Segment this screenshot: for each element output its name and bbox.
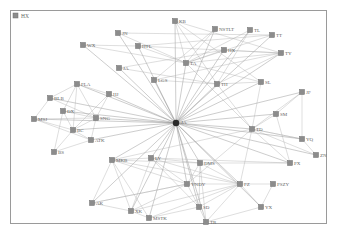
node-bc[interactable]: BC (71, 128, 85, 133)
hub-node-label: JA (181, 120, 187, 125)
edge-JA2-TH (119, 68, 217, 84)
node-jn[interactable]: JN (116, 31, 128, 36)
edge-TH-TD (217, 84, 252, 129)
edge-MSTK-FZ (149, 184, 240, 218)
node-htl[interactable]: HTL (136, 44, 152, 49)
node-yndy[interactable]: YNDY (185, 182, 206, 187)
node-label: SM (280, 112, 288, 117)
node-square-icon (110, 158, 115, 163)
node-square-icon (71, 128, 76, 133)
node-yx[interactable]: YX (259, 205, 273, 210)
node-blb[interactable]: BLB (48, 96, 65, 101)
node-square-icon (32, 117, 37, 122)
node-square-icon (314, 153, 319, 158)
node-square-icon (250, 127, 255, 132)
edge-hub-PX (176, 123, 290, 163)
node-ty[interactable]: TY (279, 51, 293, 56)
node-atk[interactable]: ATK (89, 138, 106, 143)
edge-hub-WX (83, 45, 176, 123)
edge-TD-PX (252, 129, 290, 163)
node-square-icon (173, 19, 178, 24)
node-label: HX (228, 48, 236, 53)
node-fla[interactable]: FLA (75, 82, 91, 87)
edge-HJ-SNG (96, 94, 109, 118)
node-lgs[interactable]: LGS (152, 78, 168, 83)
node-hj[interactable]: HJ (107, 92, 119, 97)
node-pszy[interactable]: PSZY (271, 182, 290, 187)
node-wx[interactable]: WX (81, 43, 96, 48)
edge-hub-TD (176, 123, 252, 129)
edge-JF-TD (252, 92, 302, 129)
node-sd[interactable]: SD (197, 205, 210, 210)
edge-hub-LY (151, 123, 176, 158)
node-fz[interactable]: FZ (238, 182, 250, 187)
node-mkb[interactable]: MKB (110, 158, 129, 163)
node-square-icon (116, 31, 121, 36)
node-kb[interactable]: KB (173, 19, 187, 24)
node-square-icon (81, 43, 86, 48)
edge-JN-TT (118, 33, 272, 35)
node-label: BS (58, 150, 64, 155)
edge-hub-YQ (176, 123, 302, 139)
node-tr[interactable]: TR (204, 220, 218, 225)
node-yq[interactable]: YQ (300, 137, 314, 142)
node-jf[interactable]: JF (300, 90, 311, 95)
node-bs[interactable]: BS (52, 150, 65, 155)
node-label: LGS (158, 78, 168, 83)
node-hx2[interactable]: HX (222, 48, 236, 53)
node-square-icon (270, 33, 275, 38)
node-label: TY (285, 51, 292, 56)
node-square-icon (89, 138, 94, 143)
node-dx[interactable]: DX (61, 109, 75, 114)
node-sng[interactable]: SNG (94, 116, 111, 121)
node-label: JF (306, 90, 311, 95)
node-square-icon (149, 156, 154, 161)
node-square-icon (61, 109, 66, 114)
node-square-icon (248, 28, 253, 33)
node-square-icon (185, 182, 190, 187)
node-label: SD (203, 205, 210, 210)
node-square-icon (117, 66, 122, 71)
node-label: SL (265, 80, 271, 85)
edge-hub-SL (176, 82, 261, 123)
node-square-icon (238, 182, 243, 187)
node-square-icon (52, 150, 57, 155)
node-sm[interactable]: SM (274, 112, 288, 117)
node-td[interactable]: TD (250, 127, 264, 132)
node-dms[interactable]: DMS (198, 161, 216, 166)
node-tl[interactable]: TL (248, 28, 261, 33)
node-sl[interactable]: SL (259, 80, 271, 85)
edge-FZ-YX (240, 184, 261, 207)
node-tt[interactable]: TT (270, 33, 283, 38)
node-ta[interactable]: TA (184, 61, 197, 66)
node-square-icon (90, 201, 95, 206)
node-square-icon (300, 137, 305, 142)
edge-FZ-TD (240, 129, 252, 184)
edge-HJ-BC (73, 94, 109, 130)
node-square-icon (129, 209, 134, 214)
edge-hub-SD (176, 123, 199, 207)
node-square-icon (300, 90, 305, 95)
node-msj[interactable]: MSJ (32, 117, 48, 122)
node-ly[interactable]: LY (149, 156, 162, 161)
node-nstlt[interactable]: NSTLT (213, 27, 235, 32)
node-px[interactable]: PX (288, 161, 301, 166)
node-mstk[interactable]: MSTK (147, 216, 168, 221)
node-th[interactable]: TH (215, 82, 229, 87)
node-label: MKB (116, 158, 128, 163)
node-square-icon (152, 78, 157, 83)
node-ak[interactable]: AK (90, 201, 104, 206)
edge-SM-PX (276, 114, 290, 163)
node-ja2[interactable]: JA (117, 66, 129, 71)
node-label: ATK (95, 138, 105, 143)
hub-node-icon (173, 120, 179, 126)
node-label: MSTK (153, 216, 167, 221)
node-label: TR (210, 220, 217, 225)
node-square-icon (107, 92, 112, 97)
node-label: FZ (244, 182, 250, 187)
node-zn[interactable]: ZN (314, 153, 328, 158)
node-square-icon (94, 116, 99, 121)
node-xk[interactable]: XK (129, 209, 143, 214)
edge-hub-AK (92, 123, 176, 203)
edge-hub-TH (176, 84, 217, 123)
